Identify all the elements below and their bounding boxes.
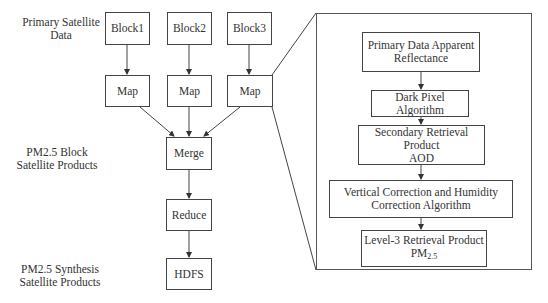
label-line: Satellite Products xyxy=(12,159,102,172)
label-pm25-synthesis-products: PM2.5 Synthesis Satellite Products xyxy=(18,263,102,289)
node-label: Merge xyxy=(174,147,204,160)
block1-node: Block1 xyxy=(105,12,150,45)
label-primary-satellite-data: Primary Satellite Data xyxy=(18,16,104,42)
node-label: HDFS xyxy=(174,268,203,281)
pm-subscript: 2.5 xyxy=(427,252,437,261)
apparent-reflectance-node: Primary Data Apparent Reflectance xyxy=(362,32,480,72)
node-label: Correction Algorithm xyxy=(371,199,470,212)
block2-node: Block2 xyxy=(167,12,212,45)
node-label: Map xyxy=(117,85,138,98)
node-label: AOD xyxy=(409,152,434,165)
reduce-node: Reduce xyxy=(166,199,212,231)
block3-node: Block3 xyxy=(227,12,272,45)
label-line: PM2.5 Synthesis xyxy=(18,263,102,276)
node-label: Reflectance xyxy=(394,52,448,65)
node-label: Secondary Retrieval Product xyxy=(359,126,484,152)
label-line: PM2.5 Block xyxy=(12,146,102,159)
node-label: Block1 xyxy=(111,22,144,35)
label-line: Data xyxy=(18,29,104,42)
hdfs-node: HDFS xyxy=(166,258,212,290)
node-label: Block2 xyxy=(173,22,206,35)
pm-text: PM xyxy=(411,247,428,259)
vertical-humidity-correction-node: Vertical Correction and Humidity Correct… xyxy=(329,180,513,218)
map3-node: Map xyxy=(227,75,273,107)
node-label: Dark Pixel Algorithm xyxy=(372,91,468,117)
pm25-label: PM2.5 xyxy=(411,247,438,263)
node-label: Reduce xyxy=(172,209,206,222)
label-line: Satellite Products xyxy=(18,276,102,289)
label-line: Primary Satellite xyxy=(22,16,100,28)
label-pm25-block-products: PM2.5 Block Satellite Products xyxy=(12,146,102,172)
node-label: Map xyxy=(179,85,200,98)
node-label: Map xyxy=(239,85,260,98)
pm25-product-node: Level-3 Retrieval Product PM2.5 xyxy=(361,230,487,267)
map1-node: Map xyxy=(105,75,150,107)
dark-pixel-node: Dark Pixel Algorithm xyxy=(371,90,469,117)
node-label: Primary Data Apparent xyxy=(368,39,475,52)
merge-node: Merge xyxy=(166,137,212,170)
node-label: Level-3 Retrieval Product xyxy=(364,234,483,247)
map2-node: Map xyxy=(167,75,212,107)
aod-product-node: Secondary Retrieval Product AOD xyxy=(358,125,485,165)
node-label: Block3 xyxy=(233,22,266,35)
node-label: Vertical Correction and Humidity xyxy=(344,186,498,199)
